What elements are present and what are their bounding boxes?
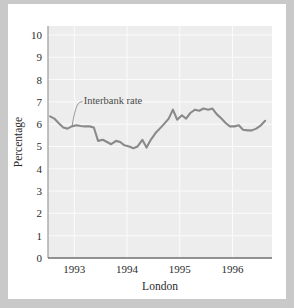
x-axis-tick-labels: 1993199419951996 [63,263,244,275]
x-tick-label: 1995 [169,263,192,275]
y-tick-label: 0 [37,252,43,264]
y-tick-label: 10 [31,29,43,41]
interbank-rate-line-chart: 012345678910 1993199419951996 Interbank … [8,4,286,299]
plot-background [48,26,272,258]
y-axis-title: Percentage [12,117,25,167]
x-tick-label: 1994 [116,263,139,275]
figure-card: 012345678910 1993199419951996 Interbank … [8,4,286,299]
y-tick-label: 7 [37,96,43,108]
y-tick-label: 6 [37,118,43,130]
x-tick-label: 1996 [221,263,244,275]
y-tick-label: 5 [37,140,43,152]
y-tick-label: 1 [37,230,43,242]
x-tick-label: 1993 [63,263,86,275]
x-axis-title: London [142,280,178,292]
y-tick-label: 8 [37,74,43,86]
y-tick-label: 2 [37,207,43,219]
y-tick-label: 3 [37,185,43,197]
y-tick-label: 4 [37,163,43,175]
y-tick-label: 9 [37,51,43,63]
chart-canvas: 012345678910 1993199419951996 Interbank … [8,4,286,299]
y-axis-tick-labels: 012345678910 [31,29,43,264]
annotation-label: Interbank rate [84,95,143,106]
